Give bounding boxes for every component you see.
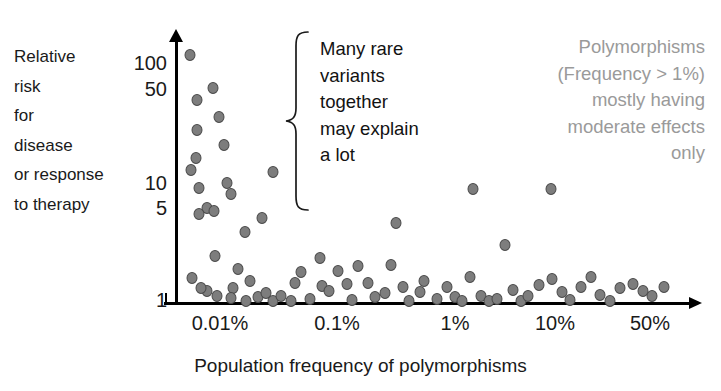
scatter-point <box>185 49 196 61</box>
scatter-point <box>404 295 415 307</box>
x-axis-tick-label: 1% <box>441 312 470 335</box>
scatter-point <box>226 188 237 200</box>
x-axis-tick-label: 0.1% <box>314 312 360 335</box>
scatter-point <box>219 139 230 151</box>
scatter-point <box>194 182 205 194</box>
polymorphisms-note-line: only <box>557 140 705 167</box>
scatter-point <box>209 205 220 217</box>
scatter-point <box>191 152 202 164</box>
polymorphisms-note-line: Polymorphisms <box>557 34 705 61</box>
x-axis-tick-label: 0.01% <box>192 312 249 335</box>
scatter-point <box>296 266 307 278</box>
scatter-point <box>257 212 268 224</box>
scatter-point <box>586 271 597 283</box>
scatter-point <box>315 252 326 264</box>
scatter-point <box>508 284 519 296</box>
x-axis-tick-label: 50% <box>630 312 670 335</box>
scatter-point <box>391 217 402 229</box>
polymorphisms-note-line: moderate effects <box>557 114 705 141</box>
scatter-point <box>342 278 353 290</box>
scatter-point <box>363 277 374 289</box>
scatter-point <box>500 239 511 251</box>
polymorphisms-note: Polymorphisms (Frequency > 1%) mostly ha… <box>557 34 705 167</box>
annotation-line: may explain <box>320 116 419 143</box>
polymorphisms-note-line: mostly having <box>557 87 705 114</box>
scatter-point <box>196 282 207 294</box>
annotation-line: together <box>320 89 419 116</box>
rare-variants-annotation: Many rare variants together may explain … <box>320 36 419 169</box>
x-axis-tick-label: 10% <box>535 312 575 335</box>
scatter-point <box>432 293 443 305</box>
scatter-point <box>380 287 391 299</box>
scatter-point <box>192 124 203 136</box>
scatter-point <box>186 164 197 176</box>
scatter-point <box>546 183 557 195</box>
scatter-point <box>659 281 670 293</box>
scatter-point <box>286 295 297 307</box>
scatter-point <box>534 279 545 291</box>
scatter-point <box>492 293 503 305</box>
scatter-point <box>347 294 358 306</box>
curly-brace-icon <box>284 30 310 212</box>
scatter-point <box>233 263 244 275</box>
scatter-point <box>398 281 409 293</box>
scatter-point <box>290 277 301 289</box>
scatter-point <box>268 166 279 178</box>
scatter-point <box>194 208 205 220</box>
polymorphisms-note-line: (Frequency > 1%) <box>557 61 705 88</box>
scatter-point <box>605 295 616 307</box>
annotation-line: variants <box>320 63 419 90</box>
scatter-point <box>465 271 476 283</box>
x-axis-title: Population frequency of polymorphisms <box>0 355 721 377</box>
scatter-plot-figure: Relative risk for disease or response to… <box>0 0 721 391</box>
scatter-point <box>240 226 251 238</box>
scatter-point <box>419 275 430 287</box>
annotation-line: Many rare <box>320 36 419 63</box>
scatter-point <box>210 250 221 262</box>
scatter-point <box>245 275 256 287</box>
scatter-point <box>333 265 344 277</box>
scatter-point <box>192 94 203 106</box>
scatter-point <box>565 294 576 306</box>
scatter-point <box>576 281 587 293</box>
scatter-point <box>386 259 397 271</box>
annotation-line: a lot <box>320 142 419 169</box>
scatter-point <box>226 292 237 304</box>
scatter-point <box>523 290 534 302</box>
scatter-point <box>615 282 626 294</box>
scatter-point <box>241 295 252 307</box>
scatter-point <box>468 183 479 195</box>
scatter-point <box>212 290 223 302</box>
scatter-point <box>305 293 316 305</box>
scatter-point <box>214 111 225 123</box>
scatter-point <box>353 260 364 272</box>
scatter-point <box>547 273 558 285</box>
scatter-point <box>457 295 468 307</box>
scatter-point <box>208 82 219 94</box>
scatter-point <box>324 285 335 297</box>
scatter-point <box>415 286 426 298</box>
scatter-point <box>647 290 658 302</box>
scatter-point <box>187 272 198 284</box>
